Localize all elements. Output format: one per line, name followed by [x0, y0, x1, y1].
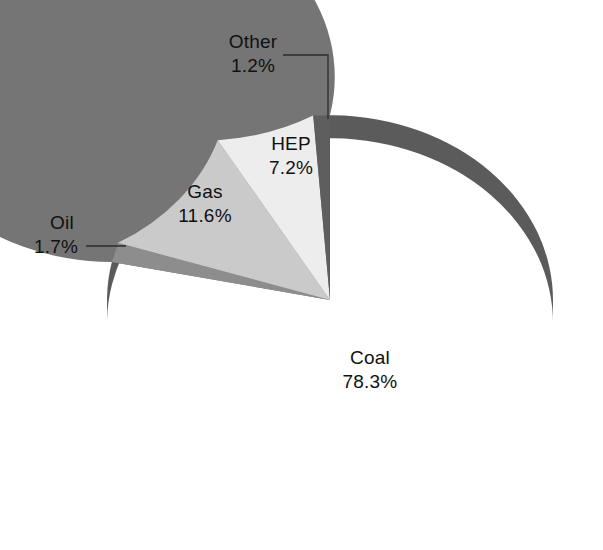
slice-label-coal-value: 78.3%: [343, 371, 398, 392]
slice-label-other-name: Other: [229, 31, 278, 52]
slice-label-oil-value: 1.7%: [34, 236, 78, 257]
pie-chart-svg: Other 1.2% HEP 7.2% Gas 11.6% Oil 1.7% C…: [0, 0, 603, 550]
slice-label-other-value: 1.2%: [231, 55, 275, 76]
slice-label-gas-value: 11.6%: [178, 205, 231, 226]
slice-label-oil-name: Oil: [50, 212, 74, 233]
pie-chart-figure: Other 1.2% HEP 7.2% Gas 11.6% Oil 1.7% C…: [0, 0, 603, 550]
slice-label-gas-name: Gas: [187, 181, 222, 202]
slice-label-coal: Coal 78.3%: [343, 347, 398, 392]
slice-label-hep-value: 7.2%: [269, 157, 313, 178]
slice-label-coal-name: Coal: [350, 347, 390, 368]
slice-label-hep-name: HEP: [271, 133, 311, 154]
